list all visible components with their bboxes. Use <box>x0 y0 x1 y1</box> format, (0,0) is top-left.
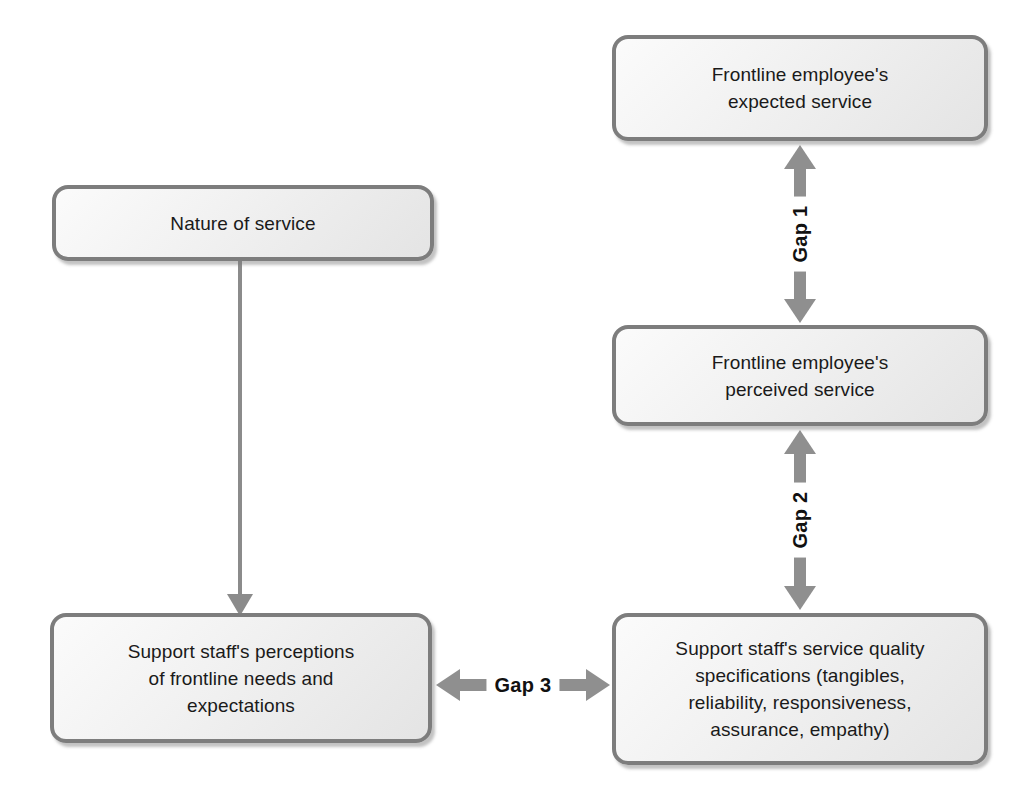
arrow-down-icon <box>784 299 816 323</box>
arrow-left-icon <box>436 669 460 701</box>
gap1-connector: Gap 1 <box>770 145 830 323</box>
arrow-down-icon <box>784 586 816 610</box>
node-frontline-perceived-service-label: Frontline employee's perceived service <box>698 349 903 403</box>
node-frontline-expected-service-label: Frontline employee's expected service <box>698 61 903 115</box>
node-support-staff-perceptions[interactable]: Support staff's perceptions of frontline… <box>50 613 432 743</box>
gap3-connector: Gap 3 <box>436 660 610 710</box>
arrow-up-icon <box>784 145 816 169</box>
gap1-label: Gap 1 <box>787 196 814 271</box>
node-nature-of-service[interactable]: Nature of service <box>52 185 434 261</box>
node-nature-of-service-label: Nature of service <box>156 210 329 237</box>
arrow-up-icon <box>784 430 816 454</box>
node-support-staff-perceptions-label: Support staff's perceptions of frontline… <box>114 638 369 719</box>
node-support-staff-specifications[interactable]: Support staff's service quality specific… <box>612 613 988 765</box>
connector-nature-to-perceptions-shaft <box>238 259 242 599</box>
arrow-right-icon <box>586 669 610 701</box>
node-frontline-expected-service[interactable]: Frontline employee's expected service <box>612 35 988 141</box>
node-support-staff-specifications-label: Support staff's service quality specific… <box>661 635 938 743</box>
gap2-label: Gap 2 <box>787 482 814 557</box>
gap3-label: Gap 3 <box>486 672 559 699</box>
node-frontline-perceived-service[interactable]: Frontline employee's perceived service <box>612 325 988 426</box>
gap2-connector: Gap 2 <box>770 430 830 610</box>
diagram-canvas: Gap 1 Gap 2 Gap 3 Nature of service Fron… <box>0 0 1032 794</box>
